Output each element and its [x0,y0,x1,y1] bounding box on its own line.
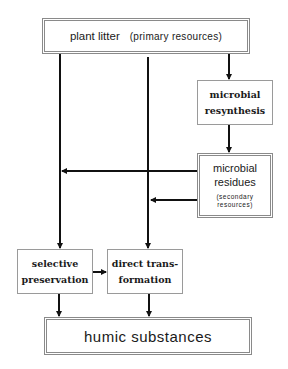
direct-line2: formation [119,274,172,286]
selective-line1: selective [32,258,78,270]
node-microbial-resynthesis: microbial resynthesis [197,80,273,125]
residues-line1: microbial [213,162,257,176]
residues-sub2: resources) [217,201,253,209]
resynthesis-line1: microbial [210,89,261,101]
plant-litter-label: plant litter [70,30,120,42]
node-selective-preservation: selective preservation [17,249,93,294]
residues-line2: residues [214,176,256,190]
node-microbial-residues: microbial residues (secondary resources) [197,153,273,218]
plant-litter-sublabel: (primary resources) [130,31,222,42]
humic-label: humic substances [84,328,212,345]
resynthesis-line2: resynthesis [205,105,265,117]
selective-line2: preservation [21,274,88,286]
node-plant-litter: plant litter (primary resources) [42,18,250,54]
node-humic-substances: humic substances [44,317,252,355]
node-direct-transformation: direct trans- formation [107,249,183,294]
direct-line1: direct trans- [112,258,179,270]
residues-sub1: (secondary [216,193,253,201]
